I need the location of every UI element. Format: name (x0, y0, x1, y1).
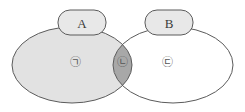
region-label-intersection: ㉡ (117, 56, 128, 69)
region-label-b-only: ㉢ (162, 56, 173, 69)
set-b-label: B (165, 16, 174, 31)
venn-diagram-figure: A B ㉠ ㉡ ㉢ (0, 0, 245, 112)
set-a-callout-box: A (58, 10, 106, 35)
set-b-callout-box: B (145, 10, 193, 35)
region-label-a-only: ㉠ (70, 56, 81, 69)
set-a-label: A (77, 16, 87, 31)
venn-diagram-canvas: A B ㉠ ㉡ ㉢ (0, 0, 245, 112)
